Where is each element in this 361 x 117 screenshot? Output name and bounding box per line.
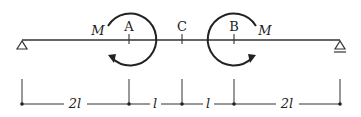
- dim-label-1: 2l: [68, 96, 81, 111]
- point-a-label: A: [123, 19, 134, 34]
- moment-a-label: M: [90, 23, 105, 38]
- beam-diagram: A C B M M 2l l l 2l: [0, 0, 361, 117]
- left-support-icon: [17, 41, 27, 49]
- dim-label-2: l: [153, 96, 157, 111]
- right-support-icon: [334, 41, 346, 52]
- point-b-label: B: [229, 19, 239, 34]
- point-c-label: C: [177, 19, 187, 34]
- moment-b-label: M: [257, 23, 272, 38]
- dim-label-3: l: [206, 96, 210, 111]
- dim-label-4: 2l: [280, 96, 293, 111]
